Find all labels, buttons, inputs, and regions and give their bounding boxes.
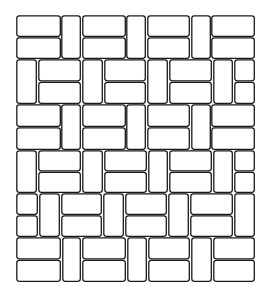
vertical-brick <box>62 105 81 150</box>
horizontal-brick <box>149 238 190 259</box>
vertical-brick <box>17 60 37 104</box>
horizontal-brick <box>191 194 233 215</box>
horizontal-brick <box>235 151 255 171</box>
horizontal-brick <box>17 260 61 281</box>
horizontal-brick <box>170 60 212 81</box>
vertical-brick <box>127 105 146 150</box>
horizontal-brick <box>83 16 126 37</box>
horizontal-brick <box>148 105 190 127</box>
vertical-brick <box>40 194 60 237</box>
horizontal-brick <box>212 16 255 37</box>
horizontal-brick <box>212 38 255 59</box>
vertical-brick <box>83 151 103 193</box>
horizontal-brick <box>83 105 126 127</box>
horizontal-brick <box>105 151 147 171</box>
horizontal-brick <box>17 128 61 150</box>
horizontal-brick <box>17 38 61 59</box>
horizontal-brick <box>148 38 190 59</box>
horizontal-brick <box>235 172 255 192</box>
vertical-brick <box>169 194 189 237</box>
horizontal-brick <box>126 216 167 237</box>
horizontal-brick <box>17 105 61 127</box>
vertical-brick <box>83 60 103 104</box>
horizontal-brick <box>212 128 255 150</box>
horizontal-brick <box>17 238 61 259</box>
vertical-brick <box>149 151 168 193</box>
vertical-brick <box>104 194 124 237</box>
horizontal-brick <box>214 260 255 281</box>
horizontal-brick <box>39 172 81 192</box>
horizontal-brick <box>17 194 38 215</box>
vertical-brick <box>127 16 146 59</box>
horizontal-brick <box>212 105 255 127</box>
row-3 <box>17 105 255 150</box>
row-6 <box>17 238 255 281</box>
horizontal-brick <box>83 38 126 59</box>
horizontal-brick <box>83 260 126 281</box>
horizontal-brick <box>39 60 81 81</box>
horizontal-brick <box>170 172 212 192</box>
vertical-brick <box>214 60 233 104</box>
vertical-brick <box>235 194 255 237</box>
vertical-brick <box>63 238 81 281</box>
horizontal-brick <box>17 216 38 237</box>
horizontal-brick <box>170 82 212 103</box>
vertical-brick <box>192 105 211 150</box>
vertical-brick <box>128 238 147 281</box>
horizontal-brick <box>126 194 167 215</box>
vertical-brick <box>17 151 37 193</box>
horizontal-brick <box>214 238 255 259</box>
vertical-brick <box>148 60 168 104</box>
horizontal-brick <box>148 16 190 37</box>
vertical-brick <box>62 16 81 59</box>
horizontal-brick <box>170 151 212 171</box>
horizontal-brick <box>105 172 147 192</box>
horizontal-brick <box>235 82 255 103</box>
horizontal-brick <box>105 60 146 81</box>
horizontal-brick <box>39 151 81 171</box>
horizontal-brick <box>62 194 102 215</box>
vertical-brick <box>192 238 212 281</box>
horizontal-brick <box>17 16 61 37</box>
row-2 <box>17 60 255 104</box>
horizontal-brick <box>149 260 190 281</box>
row-4 <box>17 151 255 193</box>
horizontal-brick <box>191 216 233 237</box>
horizontal-brick <box>148 128 190 150</box>
vertical-brick <box>192 16 211 59</box>
brick-pattern-drawing: Brick paving pattern line drawing <box>0 0 276 298</box>
horizontal-brick <box>39 82 81 103</box>
horizontal-brick <box>105 82 146 103</box>
horizontal-brick <box>235 60 255 81</box>
horizontal-brick <box>62 216 102 237</box>
horizontal-brick <box>83 128 126 150</box>
vertical-brick <box>214 151 233 193</box>
brick-pattern-canvas <box>0 0 276 298</box>
row-5 <box>17 194 255 237</box>
horizontal-brick <box>83 238 126 259</box>
row-1 <box>17 16 255 59</box>
